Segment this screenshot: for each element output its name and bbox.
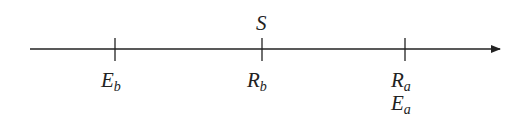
label-ea-sub: a — [404, 102, 411, 117]
label-eb-sub: b — [114, 79, 121, 94]
label-s: S — [256, 11, 267, 35]
label-rb-sub: b — [260, 79, 267, 94]
label-ra-sub: a — [404, 79, 411, 94]
label-ra-main: R — [390, 68, 404, 92]
label-ea: Ea — [390, 91, 411, 117]
number-line-diagram: S Eb Rb Ra Ea — [0, 0, 523, 125]
label-eb: Eb — [100, 68, 121, 94]
label-rb-main: R — [246, 68, 260, 92]
label-eb-main: E — [100, 68, 114, 92]
label-ea-main: E — [390, 91, 404, 115]
label-rb: Rb — [246, 68, 267, 94]
